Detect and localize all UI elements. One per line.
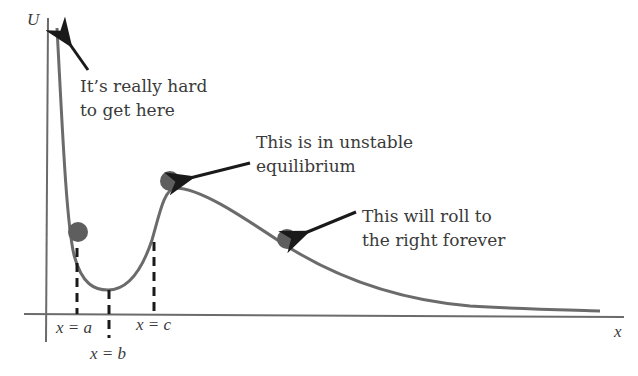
- annotation-unstable: This is in unstable equilibrium: [256, 130, 413, 178]
- arrow-roll: [305, 212, 356, 233]
- ball-unstable: [160, 171, 180, 191]
- annotation-roll-line2: the right forever: [362, 228, 505, 252]
- annotation-roll-line1: This will roll to: [362, 204, 505, 228]
- y-axis-label: U: [27, 10, 39, 30]
- annotation-hard: It’s really hard to get here: [80, 74, 207, 122]
- x-axis-label: x: [614, 322, 622, 342]
- marker-label-a: x = a: [56, 318, 92, 338]
- arrow-hard: [69, 43, 88, 70]
- marker-label-b: x = b: [90, 344, 126, 364]
- annotation-hard-line1: It’s really hard: [80, 74, 207, 98]
- potential-energy-diagram: U x x = a x = b x = c It’s really hard t…: [0, 0, 638, 376]
- annotation-roll: This will roll to the right forever: [362, 204, 505, 252]
- annotation-unstable-line1: This is in unstable: [256, 130, 413, 154]
- ball-near-wall: [68, 222, 88, 242]
- x-axis: [24, 314, 624, 317]
- y-axis: [46, 18, 48, 342]
- marker-label-c: x = c: [136, 315, 171, 335]
- annotation-unstable-line2: equilibrium: [256, 154, 413, 178]
- diagram-canvas: [0, 0, 638, 376]
- annotation-hard-line2: to get here: [80, 98, 207, 122]
- arrow-unstable: [190, 163, 250, 178]
- ball-rolling: [277, 229, 297, 249]
